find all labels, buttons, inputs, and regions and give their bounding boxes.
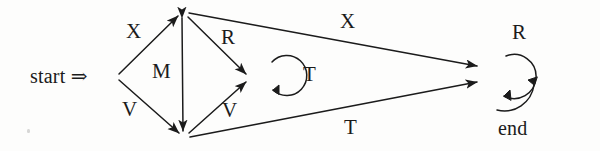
edge-label-t-bottom: T xyxy=(344,117,357,138)
edge-label-r-end: R xyxy=(512,22,526,43)
edge-label-t-loop: T xyxy=(303,64,316,85)
edge-bottom-mid-v xyxy=(189,82,246,133)
diagram-canvas: start ⇒ end X V M R V T X T R xyxy=(0,0,600,151)
edge-label-m: M xyxy=(152,61,171,82)
edge-label-r-top: R xyxy=(221,27,235,48)
scan-speck xyxy=(27,129,30,133)
edge-label-x-top: X xyxy=(340,11,355,32)
edge-top-bottom-m xyxy=(182,18,183,131)
edge-top-mid-r xyxy=(188,17,246,74)
edge-end-self-r-arrowhead xyxy=(504,90,511,100)
edge-label-v-mid: V xyxy=(222,100,237,121)
end-label: end xyxy=(498,118,527,138)
start-label: start ⇒ xyxy=(30,66,88,86)
edge-label-x-left: X xyxy=(126,21,141,42)
edge-label-v-left: V xyxy=(122,99,137,120)
